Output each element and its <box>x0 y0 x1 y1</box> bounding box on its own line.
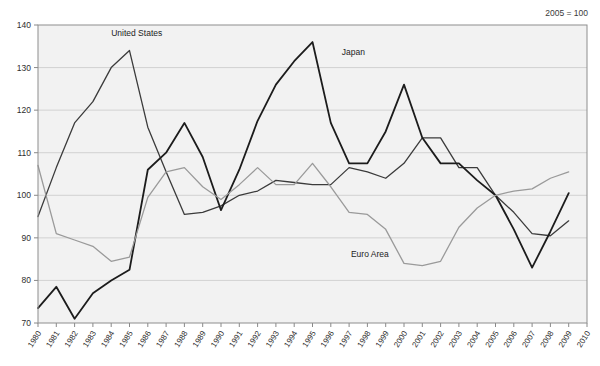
series-label-united-states: United States <box>111 28 162 38</box>
y-tick-label-70: 70 <box>22 318 32 328</box>
chart-container: 2005 = 100 19801981198219831984198519861… <box>0 0 600 366</box>
plot-area-background <box>38 25 587 323</box>
series-label-japan: Japan <box>342 47 365 57</box>
y-tick-label-130: 130 <box>17 63 31 73</box>
y-tick-label-140: 140 <box>17 20 31 30</box>
line-chart: 2005 = 100 19801981198219831984198519861… <box>0 0 600 366</box>
y-tick-label-110: 110 <box>17 148 31 158</box>
y-tick-label-90: 90 <box>22 233 32 243</box>
series-label-euro-area: Euro Area <box>351 249 389 259</box>
y-tick-label-80: 80 <box>22 275 32 285</box>
y-tick-label-100: 100 <box>17 190 31 200</box>
y-tick-label-120: 120 <box>17 105 31 115</box>
index-base-note: 2005 = 100 <box>545 8 588 18</box>
